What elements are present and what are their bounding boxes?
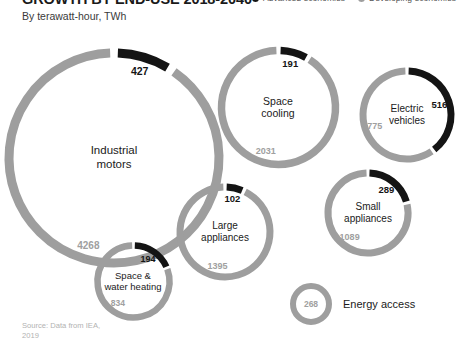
donut-energy-access: 268 — [285, 278, 337, 330]
chart-subtitle: By terawatt-hour, TWh — [22, 10, 126, 22]
source-note: Source: Data from IEA, 2019 — [22, 321, 100, 340]
donut-arcs — [89, 237, 178, 326]
value-advanced: 516 — [431, 99, 447, 110]
value-advanced: 102 — [224, 192, 240, 203]
value-advanced: 191 — [282, 57, 298, 68]
legend-swatch-icon — [252, 0, 259, 2]
donut-electric-vehicles: Electricvehicles516775 — [354, 62, 460, 168]
legend-swatch-icon — [358, 0, 365, 2]
arc-developing — [363, 71, 432, 159]
legend-item-developing: Developing economies — [358, 0, 456, 3]
donut-external-label: Energy access — [343, 298, 415, 310]
donut-large-appliances: Largeappliances1021395 — [171, 178, 279, 286]
chart-canvas: GROWTH BY END-USE 2018-2040 By terawatt-… — [0, 0, 462, 341]
arc-advanced — [227, 187, 243, 190]
page-title: GROWTH BY END-USE 2018-2040 — [22, 0, 252, 7]
donut-small-appliances: Smallappliances2891089 — [319, 164, 417, 262]
value-developing: 2031 — [256, 146, 276, 156]
value-developing: 268 — [304, 299, 318, 309]
legend-label: Developing economies — [369, 0, 456, 3]
donut-arcs — [212, 41, 345, 174]
legend-item-advanced: Advanced economies — [252, 0, 345, 3]
value-developing: 1089 — [340, 232, 360, 242]
arc-advanced — [409, 71, 451, 150]
donut-arcs — [319, 164, 417, 262]
value-advanced: 289 — [378, 184, 394, 195]
source-line-1: Source: Data from IEA, — [22, 321, 100, 330]
value-advanced: 427 — [131, 65, 149, 77]
donut-space-cooling: Spacecooling1912031 — [212, 41, 345, 174]
arc-advanced — [280, 50, 305, 57]
value-developing: 1395 — [208, 261, 228, 271]
arc-developing — [221, 50, 335, 164]
value-developing: 775 — [367, 121, 382, 131]
donut-arcs — [354, 62, 460, 168]
value-advanced: 194 — [141, 254, 156, 264]
chart-header: GROWTH BY END-USE 2018-2040 By terawatt-… — [0, 0, 462, 27]
value-developing: 834 — [111, 298, 125, 308]
donut-space-water-heating: Space &water heating194834 — [89, 237, 178, 326]
chart-legend: Advanced economies Developing economies — [252, 0, 456, 3]
legend-label: Advanced economies — [263, 0, 345, 3]
source-line-2: 2019 — [22, 331, 100, 340]
